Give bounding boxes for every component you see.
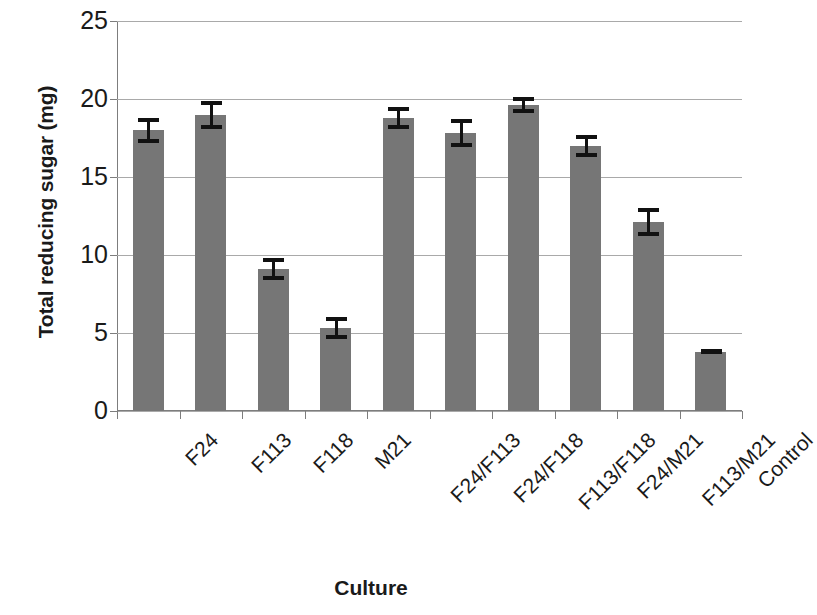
x-tick-label: M21 — [370, 428, 416, 474]
error-bar-cap-bottom — [263, 276, 284, 280]
bar — [195, 115, 226, 411]
plot-area — [117, 21, 742, 411]
bar — [383, 118, 414, 411]
x-tick-mark — [117, 411, 118, 419]
error-bar-cap-top — [201, 101, 222, 105]
error-bar-cap-top — [513, 97, 534, 101]
error-bar-cap-bottom — [451, 143, 472, 147]
x-tick-mark — [305, 411, 306, 419]
y-axis-tick-labels: 0510152025 — [46, 0, 108, 615]
y-tick-label: 5 — [52, 320, 108, 345]
x-tick-mark — [180, 411, 181, 419]
error-bar-cap-bottom — [388, 125, 409, 129]
bar — [633, 222, 664, 411]
bar — [320, 328, 351, 411]
error-bar-cap-bottom — [326, 335, 347, 339]
y-tick-label: 15 — [52, 164, 108, 189]
x-tick-mark — [680, 411, 681, 419]
x-tick-mark — [742, 411, 743, 419]
error-bar-cap-top — [326, 317, 347, 321]
x-tick-label: F113 — [246, 428, 296, 478]
x-tick-mark — [242, 411, 243, 419]
y-tick-label: 25 — [52, 8, 108, 33]
error-bar-cap-bottom — [138, 139, 159, 143]
bar — [133, 130, 164, 411]
error-bar-cap-bottom — [513, 109, 534, 113]
bar — [258, 269, 289, 411]
y-tick-mark — [110, 21, 117, 22]
y-tick-mark — [110, 411, 117, 412]
y-tick-label: 10 — [52, 242, 108, 267]
error-bar-cap-bottom — [576, 153, 597, 157]
y-tick-mark — [110, 99, 117, 100]
y-tick-mark — [110, 177, 117, 178]
y-tick-mark — [110, 333, 117, 334]
error-bar-cap-bottom — [701, 349, 722, 353]
x-tick-label: F24 — [181, 428, 224, 471]
x-tick-label: F118 — [309, 428, 359, 478]
bar — [445, 133, 476, 411]
error-bar-cap-top — [263, 258, 284, 262]
y-tick-label: 20 — [52, 86, 108, 111]
y-tick-label: 0 — [52, 398, 108, 423]
x-axis-title: Culture — [0, 576, 742, 600]
error-bar-cap-bottom — [201, 125, 222, 129]
bar — [570, 146, 601, 411]
error-bar-cap-top — [138, 118, 159, 122]
error-bar-cap-top — [388, 107, 409, 111]
error-bar-cap-bottom — [638, 232, 659, 236]
error-bar-cap-top — [576, 135, 597, 139]
x-axis-tick-labels: F24F113F118M21F24/F113F24/F118F113/F118F… — [117, 424, 742, 574]
gridline — [117, 21, 742, 22]
y-axis-line — [117, 21, 118, 411]
x-tick-mark — [430, 411, 431, 419]
bar — [508, 105, 539, 411]
x-tick-mark — [367, 411, 368, 419]
error-bar-cap-top — [451, 119, 472, 123]
x-tick-mark — [617, 411, 618, 419]
x-tick-mark — [492, 411, 493, 419]
error-bar-cap-top — [638, 208, 659, 212]
y-tick-mark — [110, 255, 117, 256]
x-tick-mark — [555, 411, 556, 419]
bar — [695, 352, 726, 411]
